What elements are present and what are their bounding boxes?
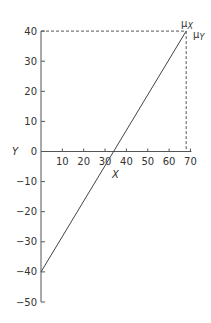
y-tick-label: −30 — [16, 236, 37, 247]
mu-y-label: μY — [193, 29, 205, 42]
x-axis-label: X — [111, 169, 120, 180]
axes — [41, 31, 191, 302]
y-tick-label: 30 — [24, 56, 37, 67]
regression-chart: 403020100−10−20−30−40−5010203040506070 Y… — [0, 0, 211, 323]
x-tick-label: 20 — [77, 156, 90, 167]
y-tick-label: −50 — [16, 297, 37, 308]
y-tick-label: 20 — [24, 86, 37, 97]
y-tick-label: 40 — [24, 26, 37, 37]
x-tick-label: 50 — [141, 156, 154, 167]
x-tick-label: 40 — [120, 156, 133, 167]
mu-x-label: μX — [181, 18, 193, 31]
y-tick-label: −20 — [16, 206, 37, 217]
y-tick-label: −40 — [16, 266, 37, 277]
mean-guides — [41, 31, 186, 151]
y-tick-label: −10 — [16, 176, 37, 187]
y-axis-label: Y — [12, 146, 19, 157]
x-tick-label: 60 — [163, 156, 176, 167]
x-tick-label: 10 — [56, 156, 69, 167]
y-tick-label: 10 — [24, 116, 37, 127]
ticks: 403020100−10−20−30−40−5010203040506070 — [16, 26, 197, 308]
y-tick-label: 0 — [31, 146, 37, 157]
x-tick-label: 70 — [184, 156, 197, 167]
